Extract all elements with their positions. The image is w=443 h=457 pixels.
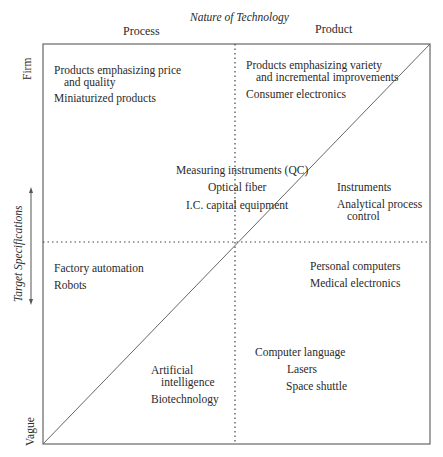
item-robots: Robots (54, 279, 87, 292)
item-ic-capital-equipment: I.C. capital equipment (186, 199, 288, 212)
item-variety-2: and incremental improvements (256, 71, 398, 84)
column-product: Product (315, 22, 352, 37)
item-medical-electronics: Medical electronics (310, 277, 400, 290)
item-lasers: Lasers (287, 363, 317, 376)
item-computer-language: Computer language (255, 346, 345, 359)
item-miniaturized: Miniaturized products (54, 92, 156, 105)
item-optical-fiber: Optical fiber (208, 181, 266, 194)
column-process: Process (123, 24, 160, 39)
item-biotechnology: Biotechnology (151, 393, 219, 406)
item-factory-automation: Factory automation (54, 262, 144, 275)
item-ai-2: intelligence (161, 376, 215, 389)
item-price-quality-2: and quality (64, 76, 115, 89)
y-label-firm: Firm (21, 58, 33, 80)
arrow-up-icon (29, 187, 33, 193)
item-analytical-2: control (347, 210, 380, 223)
item-consumer-electronics: Consumer electronics (246, 88, 346, 101)
item-instruments: Instruments (337, 181, 391, 194)
y-axis-label: Target Specifications (12, 205, 24, 302)
y-label-vague: Vague (24, 417, 36, 446)
arrow-down-icon (29, 299, 33, 305)
item-measuring-instruments: Measuring instruments (QC) (176, 164, 308, 177)
item-personal-computers: Personal computers (310, 260, 400, 273)
item-space-shuttle: Space shuttle (286, 380, 347, 393)
diagram-title: Nature of Technology (190, 11, 289, 23)
